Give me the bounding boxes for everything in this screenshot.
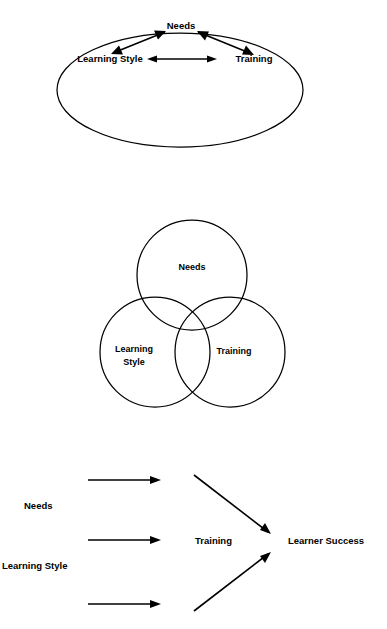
flow-arrow-diagonal-down — [194, 475, 271, 534]
flow-label-learning-style: Learning Style — [2, 560, 67, 571]
flow-arrow-horizontal-3 — [88, 600, 161, 608]
arrow-learning-style-training — [147, 56, 217, 63]
flow-label-learner-success: Learner Success — [288, 535, 364, 546]
venn-label-style: Style — [123, 357, 145, 367]
flow-label-training: Training — [195, 535, 232, 546]
figure-stack: Needs Learning Style Training Needs Lear… — [0, 0, 387, 629]
ellipse-boundary — [57, 33, 303, 147]
figure-flow-inputs-outcome: Needs Learning Style Training Learner Su… — [0, 440, 387, 629]
arrow-needs-training — [197, 31, 254, 55]
ellipse-node-learning-style: Learning Style — [77, 53, 142, 64]
figure-ellipse-triad: Needs Learning Style Training — [0, 0, 387, 180]
venn-circle-needs — [137, 220, 247, 330]
arrow-needs-learning-style — [111, 31, 166, 55]
figure-venn-triad: Needs Learning Style Training — [0, 180, 387, 440]
flow-arrow-diagonal-up — [194, 552, 271, 611]
flow-label-needs: Needs — [24, 500, 53, 511]
ellipse-node-needs: Needs — [167, 20, 196, 31]
venn-label-learning: Learning — [115, 344, 153, 354]
venn-label-training: Training — [216, 346, 251, 356]
venn-label-needs: Needs — [178, 262, 205, 272]
ellipse-node-training: Training — [236, 53, 273, 64]
flow-arrow-horizontal-1 — [88, 476, 161, 484]
diagram-page: { "page": { "background_color": "#ffffff… — [0, 0, 387, 629]
flow-arrow-horizontal-2 — [88, 536, 161, 544]
